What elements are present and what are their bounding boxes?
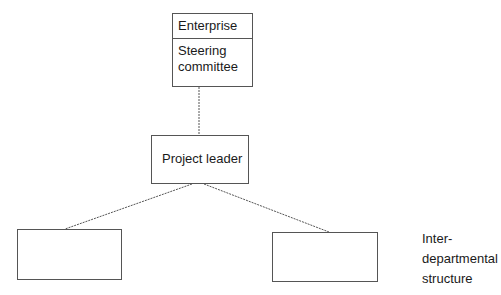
- steering-label-line1: Steering: [178, 43, 252, 59]
- right-department-node: [272, 232, 378, 282]
- interdepartmental-structure-label: Inter- departmental structure: [422, 229, 498, 289]
- project-leader-label: Project leader: [162, 151, 242, 166]
- project-leader-node: Project leader: [151, 135, 249, 184]
- side-label-line2: departmental: [422, 249, 498, 269]
- left-department-node: [17, 229, 122, 280]
- steering-committee-label: Steering committee: [173, 39, 252, 75]
- side-label-line3: structure: [422, 269, 498, 289]
- steering-label-line2: committee: [178, 59, 252, 75]
- enterprise-steering-node: Enterprise Steering committee: [172, 13, 253, 87]
- edge-leader-to-left-unit: [65, 184, 192, 229]
- edge-leader-to-right-unit: [204, 184, 329, 232]
- side-label-line1: Inter-: [422, 229, 498, 249]
- enterprise-label: Enterprise: [173, 14, 252, 39]
- diagram-canvas: Enterprise Steering committee Project le…: [0, 0, 501, 295]
